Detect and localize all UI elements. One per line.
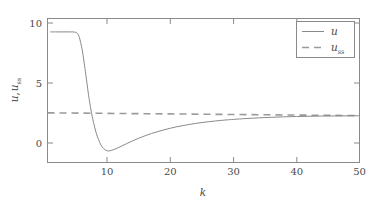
y-axis-title: u, uss	[8, 78, 23, 103]
y-tick-label-5: 5	[36, 78, 42, 89]
svg-text:u, uss: u, uss	[8, 78, 23, 103]
figure-container: 10 5 0 10 20 30 40 50 k u, uss u uss	[0, 0, 377, 208]
y-axis-title-uss-sub: ss	[15, 78, 23, 85]
x-tick-label-30: 30	[227, 166, 240, 177]
series-line-u-ss	[48, 113, 360, 116]
y-tick-label-10: 10	[29, 18, 42, 29]
x-tick-label-40: 40	[290, 166, 303, 177]
legend[interactable]: u uss	[297, 22, 355, 58]
x-axis-title: k	[200, 186, 206, 198]
x-tick-label-50: 50	[353, 166, 366, 177]
legend-label-u-ss-sub: ss	[338, 48, 345, 56]
x-tick-label-10: 10	[101, 166, 114, 177]
y-tick-label-0: 0	[36, 138, 42, 149]
legend-box	[297, 22, 355, 58]
line-chart: 10 5 0 10 20 30 40 50 k u, uss u uss	[0, 0, 377, 208]
legend-label-u: u	[331, 25, 338, 37]
x-tick-label-20: 20	[164, 166, 177, 177]
